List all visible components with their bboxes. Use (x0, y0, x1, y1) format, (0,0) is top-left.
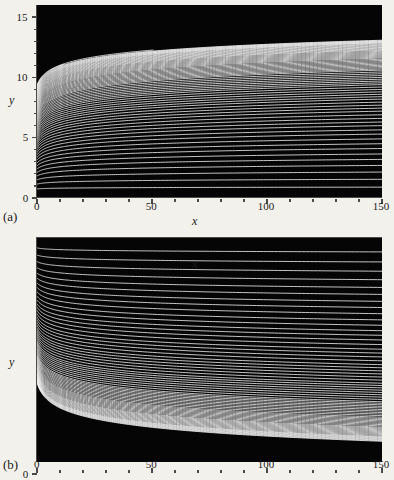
x-minor-tick (312, 199, 313, 202)
y-minor-tick (34, 185, 37, 186)
y-minor-tick (34, 125, 37, 126)
x-minor-tick (289, 199, 290, 202)
y-minor-tick (34, 41, 37, 42)
panel-b-label: (b) (3, 458, 18, 471)
x-minor-tick (335, 199, 336, 202)
y-tick-label: 15 (17, 12, 28, 23)
panel-b-curves (37, 238, 382, 462)
y-tick-label: 0 (23, 469, 29, 480)
panel-b-y-axis-label: y (9, 356, 14, 368)
y-minor-tick (34, 149, 37, 150)
y-minor-tick (34, 161, 37, 162)
x-minor-tick (105, 199, 106, 202)
x-minor-tick (105, 470, 106, 473)
panel-b-x-axis (36, 237, 382, 238)
y-tick-label: 10 (17, 72, 28, 83)
y-minor-tick (34, 113, 37, 114)
y-minor-tick (34, 53, 37, 54)
x-minor-tick (335, 470, 336, 473)
panel-a-y-axis-label: y (9, 94, 14, 106)
y-major-tick (32, 473, 37, 474)
y-tick-label: 5 (23, 132, 29, 143)
y-minor-tick (34, 65, 37, 66)
x-minor-tick (358, 199, 359, 202)
x-minor-tick (59, 470, 60, 473)
y-major-tick (32, 16, 37, 17)
x-minor-tick (358, 470, 359, 473)
x-minor-tick (59, 199, 60, 202)
y-minor-tick (34, 101, 37, 102)
panel-b-x-axis-label: x (192, 258, 197, 270)
panel-a-plot-area (37, 5, 382, 198)
x-tick-label: 100 (258, 459, 275, 470)
panel-b-plot-area (37, 238, 382, 462)
y-major-tick (32, 137, 37, 138)
panel-a-x-axis-label: x (192, 215, 197, 227)
x-minor-tick (82, 470, 83, 473)
x-minor-tick (174, 199, 175, 202)
x-minor-tick (243, 199, 244, 202)
panel-a: 050100150051015 y x (a) (0, 0, 394, 232)
y-tick-label: 0 (23, 193, 29, 204)
x-minor-tick (243, 470, 244, 473)
y-minor-tick (34, 173, 37, 174)
x-minor-tick (220, 199, 221, 202)
x-tick-label: 150 (373, 459, 390, 470)
x-tick-label: 150 (373, 201, 390, 212)
x-minor-tick (174, 470, 175, 473)
panel-b: 0501001500−5−10 y x (b) (0, 236, 394, 480)
x-tick-label: 50 (146, 201, 157, 212)
x-tick-label: 50 (146, 459, 157, 470)
x-minor-tick (82, 199, 83, 202)
figure-container: 050100150051015 y x (a) 0501001500−5−10 … (0, 0, 394, 480)
x-tick-label: 0 (34, 459, 40, 470)
x-minor-tick (312, 470, 313, 473)
x-minor-tick (197, 199, 198, 202)
x-minor-tick (128, 470, 129, 473)
panel-a-x-axis (36, 197, 382, 198)
x-tick-label: 0 (34, 201, 40, 212)
y-major-tick (32, 77, 37, 78)
x-minor-tick (128, 199, 129, 202)
x-tick-label: 100 (258, 201, 275, 212)
panel-b-y-axis (36, 238, 37, 462)
x-minor-tick (289, 470, 290, 473)
panel-a-curves (37, 5, 382, 198)
y-major-tick (32, 197, 37, 198)
panel-a-label: (a) (3, 210, 17, 223)
x-minor-tick (220, 470, 221, 473)
x-minor-tick (197, 470, 198, 473)
y-minor-tick (34, 89, 37, 90)
y-minor-tick (34, 29, 37, 30)
